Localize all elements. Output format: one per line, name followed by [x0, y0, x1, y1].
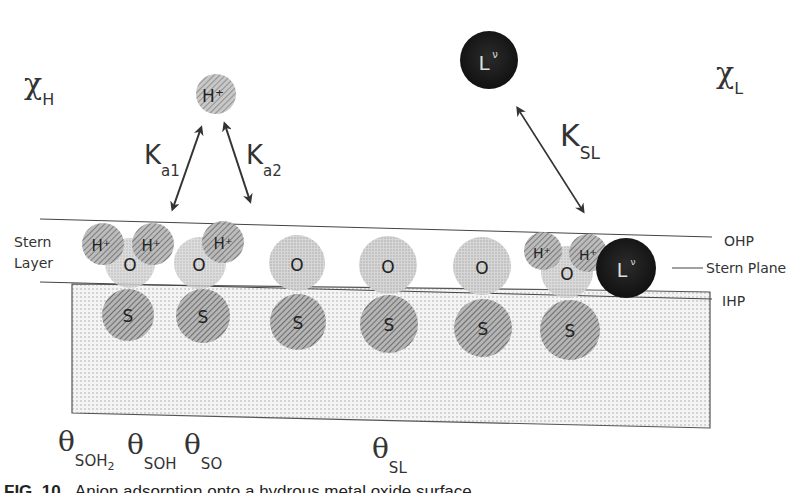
stern-layer-label: Stern Layer: [14, 232, 53, 274]
ka1-label: Ka1: [144, 140, 180, 174]
diagram-svg: H⁺ L ν S O H⁺ H⁺ S O H⁺ S O S O S O S O …: [0, 0, 810, 499]
site-4-o: O: [381, 257, 394, 277]
site-6-ligand-charge: ν: [630, 257, 635, 267]
site-2-s: S: [198, 307, 209, 327]
theta-so-label: θSO: [184, 428, 222, 465]
free-proton-label: H⁺: [202, 86, 224, 106]
site-3-s: S: [293, 313, 304, 333]
chi-l-label: χL: [716, 55, 743, 94]
site-4-s: S: [384, 315, 395, 335]
site-2-o: O: [192, 255, 205, 275]
free-ligand-charge: ν: [492, 49, 498, 60]
ksl-label: KSL: [560, 118, 600, 157]
stern-layer-line2: Layer: [14, 253, 53, 274]
diagram-canvas: H⁺ L ν S O H⁺ H⁺ S O H⁺ S O S O S O S O …: [0, 0, 810, 499]
site-5-o: O: [475, 258, 488, 278]
stern-layer-line1: Stern: [14, 232, 53, 253]
free-ligand-label: L: [478, 51, 490, 75]
site-6-s: S: [565, 321, 576, 341]
site-6-ligand: L: [617, 259, 628, 281]
site-6-h2: H⁺: [579, 247, 597, 263]
ihp-label: IHP: [722, 293, 745, 309]
theta-soh-label: θSOH: [127, 428, 176, 465]
site-1-h2: H⁺: [141, 237, 160, 255]
site-1-s: S: [123, 306, 134, 326]
theta-soh2-label: θSOH2: [58, 425, 114, 462]
site-5-s: S: [478, 319, 489, 339]
theta-sl-label: θSL: [372, 432, 407, 469]
site-6-h1: H⁺: [533, 245, 551, 261]
site-1-o: O: [123, 255, 136, 275]
chi-h-label: χH: [24, 66, 54, 105]
site-3-o: O: [290, 255, 303, 275]
stern-plane-label: Stern Plane: [706, 260, 786, 276]
site-2-h1: H⁺: [213, 235, 232, 253]
ka2-label: Ka2: [246, 140, 282, 174]
ohp-label: OHP: [724, 233, 754, 249]
site-1-h1: H⁺: [91, 237, 110, 255]
site-6-o: O: [560, 264, 573, 284]
